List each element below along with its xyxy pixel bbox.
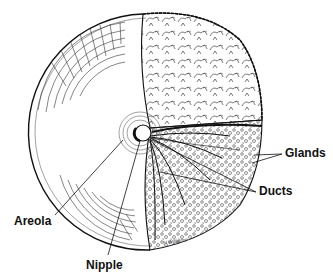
glands-label: Glands	[285, 146, 326, 160]
nipple	[134, 125, 151, 141]
nipple-leader	[108, 141, 140, 255]
breast-anatomy-illustration	[0, 0, 333, 277]
areola-leader	[55, 140, 123, 215]
nipple-label: Nipple	[86, 258, 123, 272]
ducts-label: Ducts	[259, 184, 292, 198]
fatty-tissue-upper	[142, 13, 262, 128]
glandular-tissue	[145, 120, 262, 250]
areola-label: Areola	[14, 214, 51, 228]
